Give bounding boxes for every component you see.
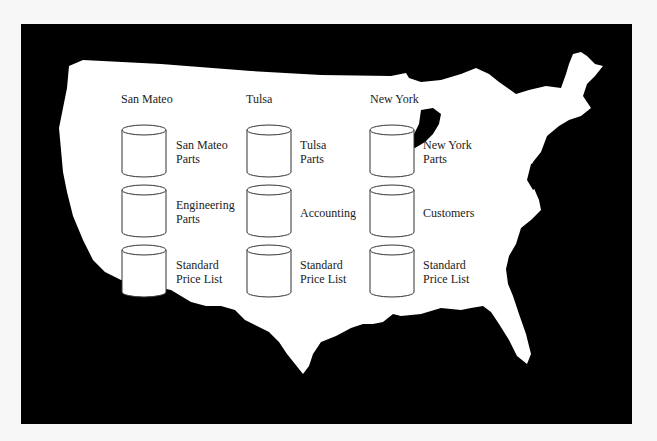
database-label: San Mateo Parts xyxy=(176,138,228,166)
database-label: Standard Price List xyxy=(300,258,346,286)
database-label: Accounting xyxy=(300,206,356,220)
database-cylinder-icon xyxy=(121,124,167,178)
database-cylinder-icon xyxy=(369,184,415,238)
database-cylinder-icon xyxy=(246,184,292,238)
database-cylinder-icon xyxy=(246,124,292,178)
database-label: Standard Price List xyxy=(176,258,222,286)
database-cylinder-icon xyxy=(121,244,167,298)
database-label: Tulsa Parts xyxy=(300,138,326,166)
database-cylinder-icon xyxy=(246,244,292,298)
database-label: Engineering Parts xyxy=(176,198,235,226)
site-label-san-mateo: San Mateo xyxy=(121,92,173,107)
us-map-silhouette xyxy=(21,24,632,424)
database-cylinder-icon xyxy=(121,184,167,238)
database-label: New York Parts xyxy=(423,138,472,166)
database-cylinder-icon xyxy=(369,244,415,298)
database-label: Standard Price List xyxy=(423,258,469,286)
database-label: Customers xyxy=(423,206,474,220)
site-label-new-york: New York xyxy=(370,92,419,107)
site-label-tulsa: Tulsa xyxy=(246,92,272,107)
database-cylinder-icon xyxy=(369,124,415,178)
map-frame xyxy=(21,24,632,424)
